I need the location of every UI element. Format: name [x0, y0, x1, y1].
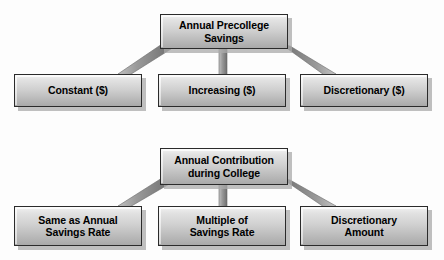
- node-annual-contribution-during-college[interactable]: Annual Contribution during College: [160, 148, 288, 185]
- connector-g1-right: [281, 44, 336, 77]
- node-label: Increasing ($): [185, 84, 260, 97]
- diagram-canvas: Annual Precollege Savings Constant ($) I…: [0, 0, 444, 260]
- node-label: Multiple of Savings Rate: [186, 214, 259, 239]
- node-discretionary-amount[interactable]: Discretionary Amount: [300, 206, 428, 246]
- node-increasing-dollars[interactable]: Increasing ($): [158, 74, 286, 107]
- node-discretionary-dollars[interactable]: Discretionary ($): [300, 74, 428, 107]
- connector-g1-center: [219, 49, 227, 75]
- node-constant-dollars[interactable]: Constant ($): [14, 74, 142, 107]
- node-annual-precollege-savings[interactable]: Annual Precollege Savings: [160, 14, 288, 49]
- node-label: Annual Contribution during College: [170, 154, 278, 179]
- node-label: Discretionary ($): [319, 84, 408, 97]
- node-multiple-of-savings-rate[interactable]: Multiple of Savings Rate: [158, 206, 286, 246]
- connector-g2-center: [219, 183, 227, 208]
- node-label: Discretionary Amount: [327, 214, 401, 239]
- connector-g2-right: [281, 178, 336, 209]
- node-label: Same as Annual Savings Rate: [34, 214, 121, 239]
- node-label: Constant ($): [44, 84, 112, 97]
- node-label: Annual Precollege Savings: [175, 19, 273, 44]
- node-same-as-annual-savings-rate[interactable]: Same as Annual Savings Rate: [14, 206, 142, 246]
